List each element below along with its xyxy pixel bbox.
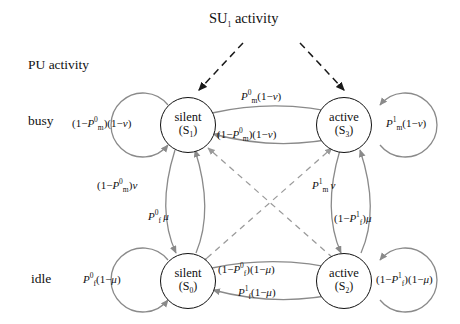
node-s2[interactable]: active (S2) (316, 253, 372, 309)
row-label-idle: idle (31, 271, 51, 287)
edge-label-s2-to-s0: P1f(1−μ) (238, 285, 276, 301)
diagram-canvas: SU1 activity PU activity busy idle silen… (0, 0, 460, 324)
edge-label-s3-self: P1m(1−v) (386, 116, 426, 132)
row-label-busy: busy (28, 113, 54, 129)
edge-label-s0-to-s2: (1−P0f)(1−μ) (218, 262, 275, 278)
su-activity-title: SU1 activity (209, 10, 278, 30)
node-s0[interactable]: silent (S0) (160, 253, 216, 309)
edge-label-s1-to-s0: (1−P0m)v (97, 178, 137, 194)
node-s0-id: (S0) (179, 280, 197, 295)
edge-label-s0-self: P0f(1−μ) (83, 272, 121, 288)
pu-activity-axis-label: PU activity (28, 57, 89, 73)
su-arrow-to-s3 (300, 43, 344, 90)
edge-label-s1-self: (1−P0m)(1−v) (72, 116, 131, 132)
edge-label-s2-to-s3: (1−P1f)μ (334, 211, 372, 227)
node-s1-id: (S1) (179, 124, 197, 139)
edge-s2-to-s3 (360, 150, 370, 253)
edge-label-s3-to-s2: P1m v (312, 178, 335, 194)
node-s2-id: (S2) (335, 280, 353, 295)
edge-label-s3-to-s1: (1−P0m)(1−v) (217, 127, 276, 143)
edge-s3-to-s2 (331, 150, 341, 253)
node-s3[interactable]: active (S3) (316, 97, 372, 153)
edge-s0-to-s1 (195, 150, 205, 253)
node-s3-id: (S3) (335, 124, 353, 139)
edge-label-s0-to-s1: P0f μ (148, 209, 169, 225)
node-s1[interactable]: silent (S1) (160, 97, 216, 153)
edge-s1-to-s0 (166, 150, 176, 253)
edge-label-s1-to-s3: P0m(1−v) (241, 89, 281, 105)
edge-s1-s2-diagonal (208, 148, 333, 258)
su-arrow-to-s1 (199, 43, 243, 90)
edge-label-s2-self: (1−P1f)(1−μ) (376, 272, 433, 288)
edge-s0-s3-diagonal (207, 148, 332, 258)
